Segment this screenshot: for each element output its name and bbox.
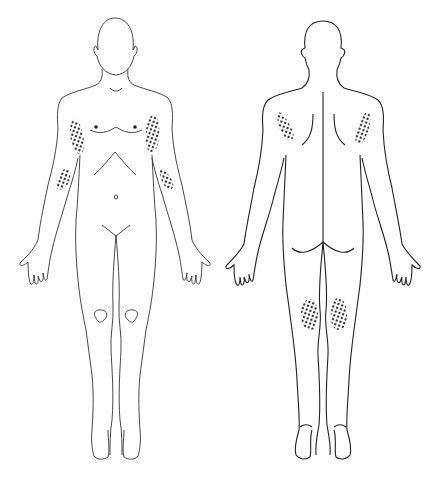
front-body-outline bbox=[20, 18, 210, 459]
marked-region-back-right-upper-arm bbox=[277, 112, 293, 141]
back-body-outline bbox=[226, 21, 420, 459]
nipple-left bbox=[94, 125, 98, 129]
marked-region-back-right-knee bbox=[301, 299, 318, 330]
nipple-right bbox=[133, 125, 137, 129]
marked-region-back-left-upper-arm bbox=[355, 112, 370, 144]
marked-region-front-right-upper-arm bbox=[70, 120, 84, 154]
body-diagram bbox=[0, 0, 440, 488]
marked-region-front-left-forearm bbox=[160, 169, 174, 190]
marked-region-back-left-knee bbox=[331, 298, 347, 330]
back-marked-regions bbox=[277, 112, 370, 330]
marked-region-front-left-upper-arm bbox=[146, 115, 160, 152]
marked-region-front-right-forearm bbox=[56, 168, 70, 190]
